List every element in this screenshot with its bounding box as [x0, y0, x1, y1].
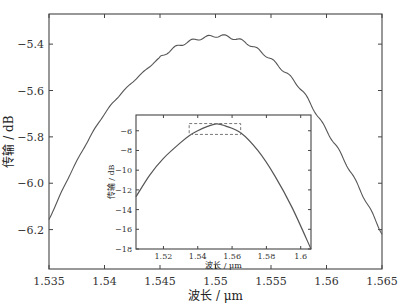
chart: 1.5351.541.5451.551.5551.561.565−5.4−5.6…: [0, 0, 402, 304]
main-x-tick-label: 1.565: [366, 275, 398, 288]
inset-y-tick-label: −6: [120, 127, 132, 136]
main-x-axis-label: 波长 / μm: [188, 289, 243, 303]
main-y-tick-label: −6.2: [17, 224, 44, 237]
inset-y-tick-label: −16: [115, 225, 132, 234]
inset-frame: [136, 115, 311, 249]
inset-y-tick-label: −8: [120, 146, 132, 155]
main-y-tick-label: −5.4: [17, 38, 44, 51]
inset-x-tick-label: 1.54: [189, 252, 207, 261]
main-y-axis-label: 传输 / dB: [1, 115, 16, 167]
main-x-tick-label: 1.545: [144, 275, 176, 288]
inset-y-tick-label: −18: [115, 245, 132, 254]
main-x-tick-label: 1.54: [92, 275, 117, 288]
inset-x-tick-label: 1.6: [294, 252, 307, 261]
main-y-tick-label: −6.0: [17, 177, 44, 190]
main-x-tick-label: 1.56: [314, 275, 339, 288]
inset-x-axis-label: 波长 / μm: [205, 260, 242, 270]
inset-y-tick-label: −10: [115, 166, 132, 175]
inset-x-tick-label: 1.52: [155, 252, 173, 261]
main-x-tick-label: 1.555: [255, 275, 287, 288]
main-y-tick-label: −5.8: [17, 131, 44, 144]
inset-y-axis-label: 传输 / dB: [106, 164, 116, 199]
main-y-tick-label: −5.6: [17, 85, 44, 98]
inset-plot: 1.521.541.561.581.6−6−8−10−12−14−16−18波长…: [106, 115, 311, 270]
main-x-tick-label: 1.55: [203, 275, 228, 288]
inset-y-tick-label: −12: [115, 186, 132, 195]
inset-x-tick-label: 1.58: [257, 252, 275, 261]
main-x-tick-label: 1.535: [33, 275, 65, 288]
inset-y-tick-label: −14: [115, 206, 132, 215]
inset-x-tick-label: 1.56: [223, 252, 241, 261]
